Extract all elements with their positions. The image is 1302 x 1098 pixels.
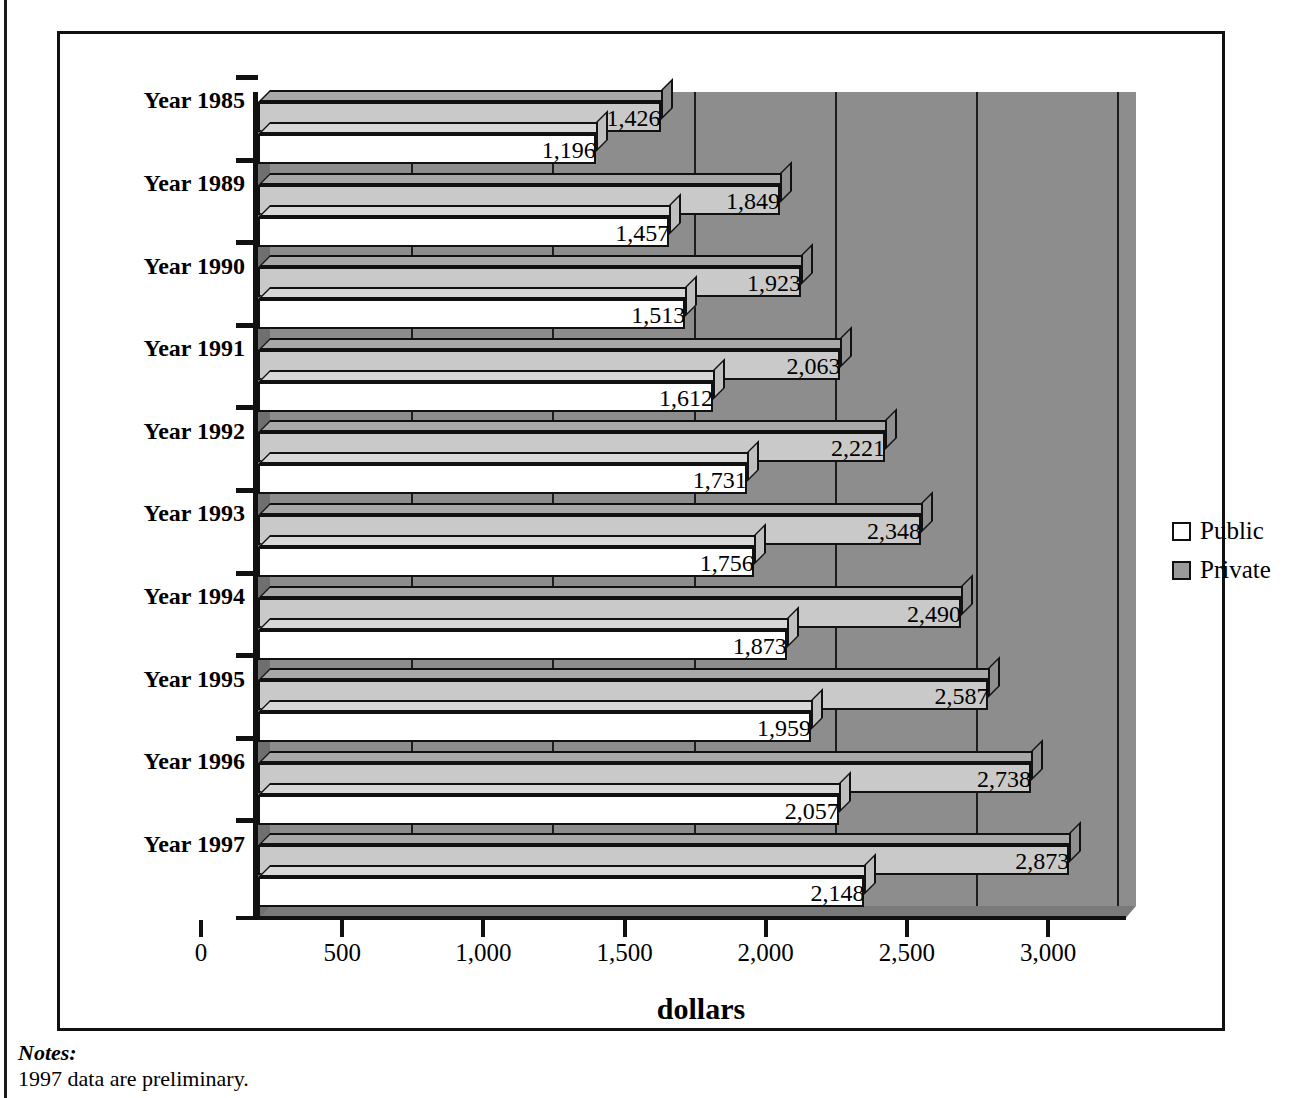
tick-label-500: 500 xyxy=(282,938,402,968)
bar-top-face-private xyxy=(258,503,933,515)
tick-label-1500: 1,500 xyxy=(565,938,685,968)
category-tick xyxy=(236,75,258,80)
bar-top-face-public xyxy=(258,122,608,134)
legend-item-private: Private xyxy=(1172,557,1271,583)
tick-2500 xyxy=(905,920,909,937)
bar-top-face-private xyxy=(258,751,1043,763)
year-label: Year 1996 xyxy=(120,747,245,775)
notes-heading: Notes: xyxy=(18,1040,918,1065)
bar-value-label: 2,148 xyxy=(258,881,864,905)
year-label: Year 1990 xyxy=(120,252,245,280)
bar-value-label: 1,513 xyxy=(258,303,685,327)
bar-value-label: 1,196 xyxy=(258,138,596,162)
bar-top-face-private xyxy=(258,668,1000,680)
year-label: Year 1994 xyxy=(120,582,245,610)
year-label: Year 1991 xyxy=(120,334,245,362)
tick-label-2500: 2,500 xyxy=(847,938,967,968)
year-label: Year 1997 xyxy=(120,830,245,858)
tick-label-2000: 2,000 xyxy=(706,938,826,968)
bar-value-label: 1,959 xyxy=(258,716,811,740)
category-tick xyxy=(236,488,258,493)
bar-top-face-private xyxy=(258,90,673,102)
tick-label-1000: 1,000 xyxy=(423,938,543,968)
tick-1000 xyxy=(481,920,485,937)
bar-top-face-public xyxy=(258,452,759,464)
bar-value-label: 1,873 xyxy=(258,634,787,658)
value-axis-origin-cap xyxy=(256,902,260,920)
bar-value-label: 1,612 xyxy=(258,386,713,410)
bar-value-label: 1,457 xyxy=(258,221,669,245)
tick-2000 xyxy=(764,920,768,937)
bar-top-face-private xyxy=(258,338,852,350)
year-label: Year 1995 xyxy=(120,665,245,693)
bar-top-face-public xyxy=(258,783,851,795)
chart-frame: 1,4261,1961,8491,4571,9231,5132,0631,612… xyxy=(57,31,1225,1031)
plot-area: 1,4261,1961,8491,4571,9231,5132,0631,612… xyxy=(258,92,1136,918)
legend-item-public: Public xyxy=(1172,518,1271,544)
tick-label-0: 0 xyxy=(141,938,261,968)
bar-top-face-public xyxy=(258,205,681,217)
bar-top-face-private xyxy=(258,586,973,598)
category-tick xyxy=(236,158,258,163)
tick-1500 xyxy=(623,920,627,937)
tick-3000 xyxy=(1046,920,1050,937)
category-tick xyxy=(236,818,258,823)
bar-top-face-private xyxy=(258,833,1081,845)
bar-top-face-public xyxy=(258,370,725,382)
category-tick xyxy=(236,405,258,410)
notes-block: Notes: 1997 data are preliminary. xyxy=(18,1040,918,1093)
bar-top-face-public xyxy=(258,865,876,877)
category-tick xyxy=(236,240,258,245)
bar-value-label: 2,057 xyxy=(258,799,839,823)
bar-top-face-public xyxy=(258,700,823,712)
bar-top-face-public xyxy=(258,287,697,299)
notes-body: 1997 data are preliminary. xyxy=(18,1065,918,1093)
legend-label-private: Private xyxy=(1200,557,1271,583)
category-tick xyxy=(236,653,258,658)
year-label: Year 1985 xyxy=(120,86,245,114)
category-tick xyxy=(236,736,258,741)
year-label: Year 1993 xyxy=(120,499,245,527)
legend-swatch-private-icon xyxy=(1172,561,1191,580)
tick-label-3000: 3,000 xyxy=(988,938,1108,968)
value-axis-title: dollars xyxy=(117,992,1285,1026)
year-label: Year 1989 xyxy=(120,169,245,197)
bar-value-label: 1,731 xyxy=(258,468,747,492)
legend-label-public: Public xyxy=(1200,518,1264,544)
bar-top-face-public xyxy=(258,535,766,547)
bar-value-label: 1,756 xyxy=(258,551,754,575)
legend-swatch-public-icon xyxy=(1172,522,1191,541)
bar-top-face-private xyxy=(258,420,897,432)
year-label: Year 1992 xyxy=(120,417,245,445)
category-axis-line xyxy=(253,92,258,920)
bar-top-face-private xyxy=(258,173,792,185)
tick-500 xyxy=(340,920,344,937)
chart-legend: Public Private xyxy=(1172,518,1271,596)
gridline-3000 xyxy=(1117,92,1119,906)
category-tick xyxy=(236,571,258,576)
value-axis-line xyxy=(236,916,1126,920)
bar-top-face-private xyxy=(258,255,813,267)
page-left-rule xyxy=(4,0,7,1098)
tick-0 xyxy=(199,920,203,937)
bar-top-face-public xyxy=(258,618,799,630)
category-tick xyxy=(236,323,258,328)
